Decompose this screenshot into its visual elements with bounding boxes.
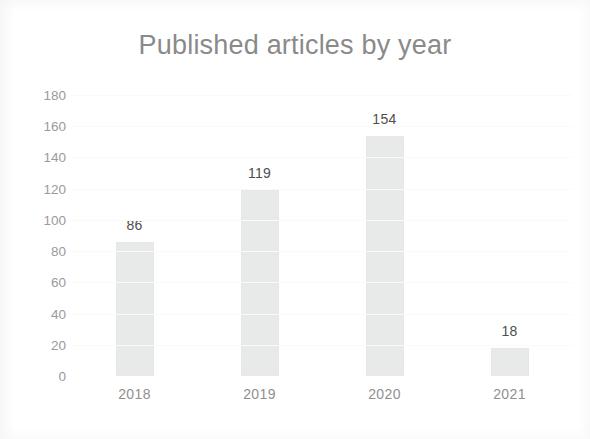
bar[interactable]	[366, 136, 404, 376]
bar-group[interactable]: 18	[491, 348, 529, 376]
y-axis-tick-label: 100	[43, 212, 66, 227]
x-axis-tick-label: 2021	[493, 386, 526, 402]
gridline	[72, 251, 572, 252]
y-axis-tick-label: 0	[58, 369, 66, 384]
y-axis-tick-label: 120	[43, 181, 66, 196]
bars-layer: 8611915418	[72, 95, 572, 376]
gridline	[72, 189, 572, 190]
y-axis-tick-label: 180	[43, 88, 66, 103]
bar-group[interactable]: 86	[116, 242, 154, 376]
chart-screenshot: Published articles by year 1801601401201…	[0, 0, 590, 439]
y-axis-tick-label: 20	[51, 337, 66, 352]
gridline	[72, 126, 572, 127]
gridline	[72, 157, 572, 158]
gridline	[72, 314, 572, 315]
bar[interactable]	[491, 348, 529, 376]
bar-value-label: 119	[248, 165, 271, 181]
y-axis-tick-label: 140	[43, 150, 66, 165]
gridline	[72, 345, 572, 346]
bar-value-label: 18	[501, 323, 517, 339]
y-axis-tick-label: 80	[51, 244, 66, 259]
bar-value-label: 154	[372, 111, 396, 127]
y-axis-tick-label: 40	[51, 306, 66, 321]
y-axis-tick-label: 60	[51, 275, 66, 290]
x-axis-tick-label: 2019	[243, 386, 276, 402]
gridline	[72, 95, 572, 96]
plot-area: 8611915418	[72, 95, 572, 376]
x-axis-tick-label: 2018	[118, 386, 151, 402]
gridline	[72, 282, 572, 283]
x-axis: 2018201920202021	[72, 384, 572, 412]
gridline	[72, 220, 572, 221]
x-axis-tick-label: 2020	[368, 386, 401, 402]
y-axis-tick-label: 160	[43, 119, 66, 134]
y-axis: 180160140120100806040200	[18, 95, 66, 376]
bar-group[interactable]: 154	[366, 136, 404, 376]
bar[interactable]	[116, 242, 154, 376]
chart-title: Published articles by year	[0, 30, 590, 61]
